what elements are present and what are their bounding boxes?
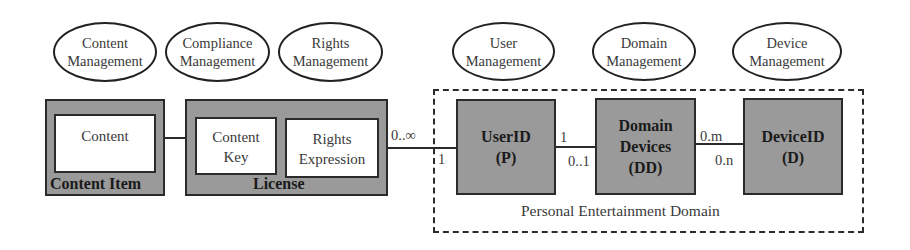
content-license-connector	[165, 137, 185, 139]
device-id-line1: DeviceID	[761, 126, 824, 147]
domain-devices-line3: (DD)	[629, 157, 663, 178]
content-key-line1: Content	[212, 127, 260, 147]
rights-management-ellipse: Rights Management	[278, 22, 383, 82]
domain-boundary-label: Personal Entertainment Domain	[521, 202, 720, 220]
content-box: Content	[54, 114, 156, 173]
content-management-ellipse: Content Management	[53, 22, 157, 82]
ellipse-line2: Management	[293, 52, 369, 70]
compliance-management-ellipse: Compliance Management	[165, 22, 270, 82]
rights-expression-line1: Rights	[312, 129, 351, 149]
domain-devices-line1: Domain	[618, 115, 672, 136]
user-management-ellipse: User Management	[452, 22, 555, 81]
user-id-line1: UserID	[481, 126, 531, 147]
ellipse-line1: Compliance	[182, 34, 252, 52]
ellipse-line2: Management	[606, 52, 682, 70]
content-label: Content	[81, 126, 129, 146]
device-management-ellipse: Device Management	[732, 22, 842, 81]
ellipse-line2: Management	[67, 52, 143, 70]
ellipse-line1: Content	[82, 34, 128, 52]
rights-expression-line2: Expression	[299, 149, 366, 169]
ellipse-line1: Domain	[621, 34, 668, 52]
ellipse-line1: Rights	[312, 34, 350, 52]
user-id-line2: (P)	[496, 147, 516, 168]
content-key-line2: Key	[224, 147, 249, 167]
ellipse-line1: User	[490, 34, 517, 52]
device-id-entity: DeviceID (D)	[743, 98, 843, 195]
content-item-title: Content Item	[50, 175, 141, 193]
multiplicity-user-side: 1	[438, 151, 445, 167]
multiplicity-user-to-dd: 1	[560, 129, 567, 145]
rights-expression-box: Rights Expression	[285, 118, 379, 178]
multiplicity-license-side: 0..∞	[391, 127, 416, 143]
ellipse-line1: Device	[766, 34, 807, 52]
device-id-line2: (D)	[782, 147, 804, 168]
domain-management-ellipse: Domain Management	[592, 22, 696, 81]
domain-devices-entity: Domain Devices (DD)	[595, 98, 696, 195]
ellipse-line2: Management	[180, 52, 256, 70]
user-id-entity: UserID (P)	[456, 99, 556, 195]
ellipse-line2: Management	[749, 52, 825, 70]
content-item-box: Content Content Item	[45, 99, 165, 196]
multiplicity-dd-from-user: 0..1	[568, 153, 590, 169]
multiplicity-device-from-dd: 0.n	[715, 152, 733, 168]
content-key-box: Content Key	[195, 117, 277, 175]
license-box: Content Key Rights Expression License	[185, 99, 388, 196]
ellipse-line2: Management	[466, 52, 542, 70]
user-dd-connector	[555, 146, 595, 148]
domain-devices-line2: Devices	[620, 136, 672, 157]
multiplicity-dd-to-device: 0.m	[700, 128, 722, 144]
license-title: License	[253, 175, 305, 193]
license-user-connector	[387, 147, 456, 149]
